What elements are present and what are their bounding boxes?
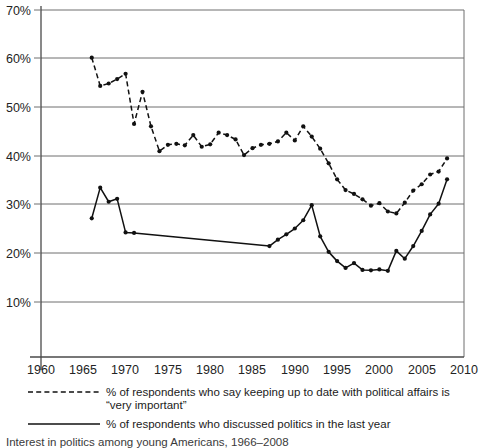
- xtick-label-2010: 2010: [450, 363, 478, 377]
- chart-page: 70% 60% 50% 40% 30% 20% 10% 1960 1965 19…: [0, 0, 480, 448]
- data-point: [157, 149, 161, 153]
- ytick-label-70: 70%: [6, 4, 31, 18]
- data-point: [132, 231, 136, 235]
- data-point: [293, 138, 297, 142]
- data-point: [318, 234, 322, 238]
- data-point: [310, 134, 314, 138]
- ytick-label-40: 40%: [6, 150, 31, 164]
- ytick-label-30: 30%: [6, 198, 31, 212]
- data-point: [166, 143, 170, 147]
- data-point: [217, 131, 221, 135]
- data-point: [276, 139, 280, 143]
- data-point: [445, 177, 449, 181]
- data-point: [191, 133, 195, 137]
- data-point: [301, 218, 305, 222]
- series-very-important-line: [92, 58, 447, 214]
- legend-label-1-line2: “very important”: [106, 399, 187, 411]
- data-point: [90, 216, 94, 220]
- data-point: [250, 146, 254, 150]
- series-very-important-markers: [90, 56, 450, 216]
- ytick-label-10: 10%: [6, 296, 31, 310]
- data-point: [352, 261, 356, 265]
- data-point: [124, 72, 128, 76]
- data-point: [420, 229, 424, 233]
- data-point: [225, 133, 229, 137]
- x-axis-labels: 1960 1965 1970 1975 1980 1985 1990 1995 …: [27, 363, 478, 377]
- data-point: [335, 177, 339, 181]
- data-point: [394, 211, 398, 215]
- series-discussed-politics-line: [92, 179, 447, 270]
- data-point: [411, 188, 415, 192]
- data-point: [343, 188, 347, 192]
- data-point: [98, 186, 102, 190]
- data-point: [310, 203, 314, 207]
- data-point: [208, 142, 212, 146]
- ytick-label-50: 50%: [6, 101, 31, 115]
- data-point: [115, 77, 119, 81]
- xtick-label-1970: 1970: [111, 363, 139, 377]
- data-point: [428, 172, 432, 176]
- data-point: [335, 259, 339, 263]
- data-point: [183, 143, 187, 147]
- data-point: [90, 56, 94, 60]
- legend-label-1-line1: % of respondents who say keeping up to d…: [106, 386, 450, 398]
- plot-frame: [30, 6, 464, 370]
- xtick-label-1980: 1980: [196, 363, 224, 377]
- xtick-label-1975: 1975: [154, 363, 182, 377]
- plot-gridlines: [41, 10, 464, 302]
- figure-caption: Interest in politics among young America…: [6, 436, 289, 448]
- data-point: [369, 204, 373, 208]
- data-point: [327, 161, 331, 165]
- data-point: [403, 201, 407, 205]
- xtick-label-1990: 1990: [281, 363, 309, 377]
- data-point: [233, 137, 237, 141]
- data-point: [420, 182, 424, 186]
- xtick-label-1995: 1995: [323, 363, 351, 377]
- data-point: [437, 202, 441, 206]
- data-point: [267, 244, 271, 248]
- chart-legend: % of respondents who say keeping up to d…: [28, 386, 450, 430]
- data-point: [115, 197, 119, 201]
- xtick-label-2000: 2000: [365, 363, 393, 377]
- xtick-label-1960: 1960: [27, 363, 55, 377]
- legend-label-2-line1: % of respondents who discussed politics …: [106, 418, 391, 430]
- ytick-label-60: 60%: [6, 52, 31, 66]
- y-axis-labels: 70% 60% 50% 40% 30% 20% 10%: [6, 4, 31, 310]
- data-point: [386, 209, 390, 213]
- data-point: [437, 169, 441, 173]
- data-point: [107, 200, 111, 204]
- data-point: [98, 84, 102, 88]
- data-point: [369, 268, 373, 272]
- data-point: [403, 257, 407, 261]
- data-point: [318, 147, 322, 151]
- data-point: [445, 156, 449, 160]
- data-point: [360, 268, 364, 272]
- data-point: [293, 226, 297, 230]
- data-point: [428, 212, 432, 216]
- xtick-label-2005: 2005: [408, 363, 436, 377]
- y-tick-marks: [34, 10, 41, 302]
- data-point: [343, 266, 347, 270]
- data-point: [124, 230, 128, 234]
- data-point: [174, 142, 178, 146]
- data-point: [140, 90, 144, 94]
- series-discussed-politics-markers: [90, 177, 450, 273]
- data-point: [360, 197, 364, 201]
- data-point: [267, 142, 271, 146]
- political-interest-line-chart: 70% 60% 50% 40% 30% 20% 10% 1960 1965 19…: [0, 0, 480, 448]
- data-point: [107, 81, 111, 85]
- ytick-label-20: 20%: [6, 247, 31, 261]
- data-point: [411, 244, 415, 248]
- data-point: [386, 269, 390, 273]
- data-point: [149, 124, 153, 128]
- xtick-label-1965: 1965: [69, 363, 97, 377]
- data-point: [327, 250, 331, 254]
- data-point: [394, 249, 398, 253]
- xtick-label-1985: 1985: [238, 363, 266, 377]
- data-point: [301, 124, 305, 128]
- data-point: [284, 232, 288, 236]
- data-point: [377, 267, 381, 271]
- data-point: [242, 153, 246, 157]
- data-point: [259, 143, 263, 147]
- data-point: [377, 201, 381, 205]
